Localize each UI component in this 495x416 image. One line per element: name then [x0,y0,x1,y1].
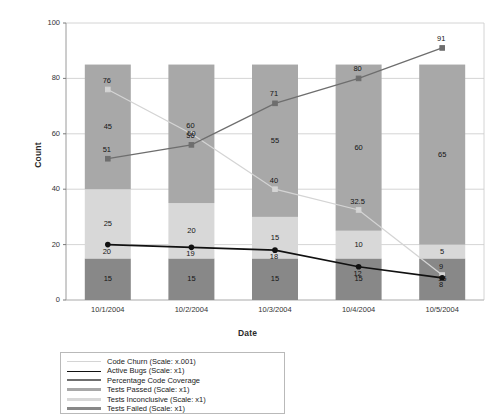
chart-legend: Code Churn (Scale: x.001)Active Bugs (Sc… [60,352,285,414]
code-coverage-label: 56 [170,131,210,140]
legend-label: Code Churn (Scale: x.001) [107,357,196,366]
data-point-marker [273,187,278,192]
legend-swatch [67,371,101,372]
code-churn-label: 9 [421,262,461,271]
bar-segment-label: 15 [255,274,295,283]
active-bugs-label: 20 [87,247,127,256]
bar-segment-label: 60 [339,143,379,152]
legend-swatch [67,361,101,362]
code-churn-label: 76 [87,76,127,85]
legend-item[interactable]: Tests Passed (Scale: x1) [67,385,284,394]
data-point-marker [106,156,111,161]
chart-container: Count Date 020406080100 10/1/200410/2/20… [0,0,495,416]
data-point-marker [440,46,445,51]
legend-swatch [67,388,101,391]
data-point-marker [356,208,361,213]
legend-swatch [67,398,101,401]
code-coverage-label: 71 [254,89,294,98]
code-coverage-label: 51 [87,145,127,154]
bar-segment-label: 15 [88,274,128,283]
code-coverage-label: 91 [421,34,461,43]
legend-label: Active Bugs (Scale: x1) [107,366,185,375]
bar-segment-label: 5 [422,247,462,256]
bar-segment-label: 15 [255,233,295,242]
legend-item[interactable]: Percentage Code Coverage [67,376,284,385]
bar-segment-label: 55 [255,136,295,145]
legend-item[interactable]: Code Churn (Scale: x.001) [67,357,284,366]
bar-segment-label: 20 [171,226,211,235]
legend-label: Tests Inconclusive (Scale: x1) [107,395,206,404]
bar-segment-label: 25 [88,219,128,228]
code-churn-label: 60 [170,121,210,130]
data-point-marker [106,87,111,92]
data-point-marker [189,143,194,148]
legend-label: Tests Failed (Scale: x1) [107,404,185,413]
legend-item[interactable]: Tests Inconclusive (Scale: x1) [67,395,284,404]
bar-segment-label: 15 [171,274,211,283]
legend-swatch [67,407,101,410]
bar-segment-label: 65 [422,150,462,159]
active-bugs-label: 8 [421,280,461,289]
legend-label: Tests Passed (Scale: x1) [107,385,190,394]
bar-segment-label: 45 [88,122,128,131]
code-churn-label: 32.5 [338,197,378,206]
legend-swatch [67,379,101,381]
active-bugs-label: 12 [338,269,378,278]
bar-segment-label: 10 [339,240,379,249]
data-point-marker [356,76,361,81]
data-point-marker [273,101,278,106]
legend-label: Percentage Code Coverage [107,376,200,385]
legend-item[interactable]: Tests Failed (Scale: x1) [67,404,284,413]
code-coverage-label: 80 [338,64,378,73]
active-bugs-label: 19 [170,249,210,258]
legend-item[interactable]: Active Bugs (Scale: x1) [67,366,284,375]
active-bugs-label: 18 [254,252,294,261]
code-churn-label: 40 [254,176,294,185]
